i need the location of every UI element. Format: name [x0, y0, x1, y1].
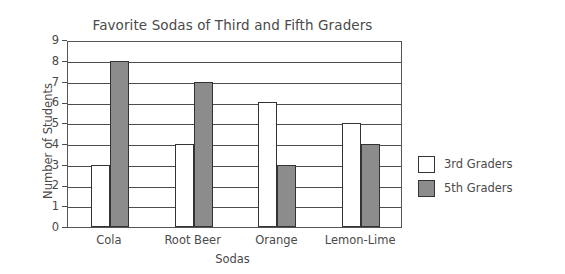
- y-tick-label: 8: [45, 56, 59, 68]
- legend-row: 3rd Graders: [418, 152, 513, 176]
- y-tick-label: 0: [45, 222, 59, 234]
- x-axis-title: Sodas: [60, 252, 405, 266]
- y-tick-label: 7: [45, 77, 59, 89]
- plot-area: [67, 41, 402, 228]
- y-tick-label: 3: [45, 160, 59, 172]
- x-tick-label: Lemon-Lime: [310, 233, 410, 247]
- bar-cola-3rd-graders: [91, 165, 110, 227]
- chart-title: Favorite Sodas of Third and Fifth Grader…: [60, 17, 405, 33]
- bar-chart-figure: Favorite Sodas of Third and Fifth Grader…: [0, 0, 565, 274]
- y-tick-label: 5: [45, 118, 59, 130]
- y-tick-label: 9: [45, 35, 59, 47]
- y-tick-label: 6: [45, 97, 59, 109]
- bar-orange-5th-graders: [277, 165, 296, 227]
- legend-label: 3rd Graders: [444, 157, 513, 171]
- bar-lemon-lime-3rd-graders: [342, 123, 361, 227]
- bar-lemon-lime-5th-graders: [361, 144, 380, 227]
- legend-swatch-3rd-graders: [418, 156, 435, 173]
- chart-legend: 3rd Graders5th Graders: [418, 152, 513, 200]
- y-tick-label: 2: [45, 180, 59, 192]
- bar-root-beer-5th-graders: [194, 82, 213, 227]
- bar-root-beer-3rd-graders: [175, 144, 194, 227]
- y-tick-label: 1: [45, 201, 59, 213]
- bar-cola-5th-graders: [110, 61, 129, 227]
- bar-orange-3rd-graders: [258, 102, 277, 227]
- y-tick-label: 4: [45, 139, 59, 151]
- legend-label: 5th Graders: [444, 181, 513, 195]
- legend-row: 5th Graders: [418, 176, 513, 200]
- legend-swatch-5th-graders: [418, 180, 435, 197]
